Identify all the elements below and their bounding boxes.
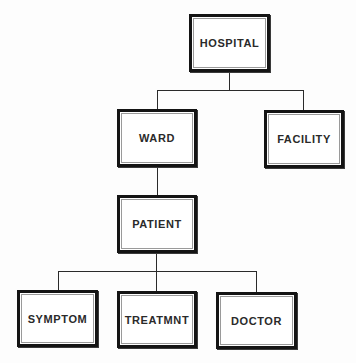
connector-to-ward (157, 90, 158, 110)
connector-hospital-down (229, 71, 230, 91)
node-label-symptom: SYMPTOM (28, 313, 88, 325)
node-hospital: HOSPITAL (189, 14, 270, 72)
node-doctor: DOCTOR (216, 292, 297, 349)
node-symptom: SYMPTOM (17, 290, 98, 347)
node-label-hospital: HOSPITAL (200, 37, 260, 49)
connector-patient-down (156, 252, 157, 292)
node-patient: PATIENT (117, 195, 197, 253)
connector-to-symptom (58, 271, 59, 291)
node-label-facility: FACILITY (277, 133, 331, 145)
connector-ward-to-patient (157, 166, 158, 196)
node-facility: FACILITY (264, 110, 344, 168)
node-ward: WARD (117, 109, 197, 167)
node-label-doctor: DOCTOR (231, 315, 282, 327)
connector-level3-bar (58, 271, 257, 272)
figure-caption (70, 358, 290, 363)
hierarchy-diagram: HOSPITAL WARD FACILITY PATIENT SYMPTOM T… (0, 0, 356, 363)
connector-to-facility (303, 90, 304, 111)
node-label-patient: PATIENT (132, 218, 182, 230)
connector-level1-bar (157, 90, 304, 91)
node-treatmnt: TREATMNT (117, 291, 197, 348)
node-label-ward: WARD (139, 132, 175, 144)
connector-to-doctor (256, 271, 257, 293)
node-label-treatmnt: TREATMNT (125, 314, 189, 326)
